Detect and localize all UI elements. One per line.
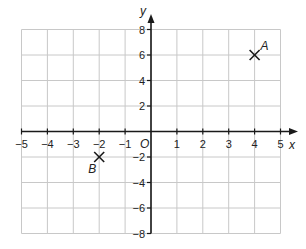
coordinate-grid: −5−4−3−2−112345 8642−2−4−6−8 AB x y O: [0, 0, 306, 249]
y-tick-label: −8: [132, 228, 145, 240]
x-tick-label: −1: [119, 138, 132, 150]
point-b: B: [88, 152, 104, 176]
y-tick-label: 4: [139, 75, 145, 87]
y-tick-label: 6: [139, 49, 145, 61]
x-tick-label: −5: [15, 138, 28, 150]
y-axis-label: y: [139, 4, 147, 18]
x-tick-label: 4: [252, 138, 258, 150]
x-axis-label: x: [288, 138, 296, 152]
y-tick-label: −2: [132, 151, 145, 163]
y-tick-label: −4: [132, 177, 145, 189]
y-tick-label: 2: [139, 100, 145, 112]
point-label: A: [260, 39, 269, 53]
x-tick-label: −2: [93, 138, 106, 150]
x-tick-label: 3: [226, 138, 232, 150]
x-tick-label: 5: [277, 138, 283, 150]
y-axis-arrow-icon: [148, 14, 155, 23]
point-a: A: [250, 39, 269, 60]
x-axis-arrow-icon: [289, 128, 298, 135]
plotted-points: AB: [88, 39, 268, 176]
x-tick-label: −3: [67, 138, 80, 150]
x-tick-label: 2: [200, 138, 206, 150]
point-label: B: [88, 162, 96, 176]
axes: [22, 14, 299, 234]
y-tick-label: −6: [132, 202, 145, 214]
x-tick-label: 1: [174, 138, 180, 150]
y-tick-label: 8: [139, 24, 145, 36]
x-tick-label: −4: [41, 138, 54, 150]
origin-label: O: [140, 137, 149, 151]
